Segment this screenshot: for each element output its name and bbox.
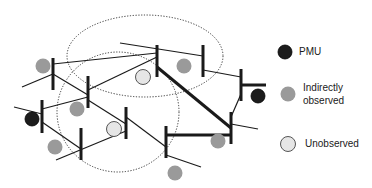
pmu-legend-icon — [278, 45, 292, 59]
indirect-node-icon — [177, 59, 192, 74]
unobserved-node-icon — [136, 70, 151, 85]
transmission-line — [53, 74, 88, 95]
transmission-line — [203, 70, 241, 77]
transmission-line — [22, 74, 53, 87]
transmission-line — [120, 43, 203, 56]
indirect-node-icon — [36, 59, 51, 74]
transmission-line — [166, 155, 201, 167]
indirect-node-icon — [211, 134, 226, 149]
legend-label-unobserved: Unobserved — [305, 138, 359, 150]
indirect-node-icon — [168, 166, 183, 181]
pmu-node-icon — [251, 89, 265, 103]
transmission-line — [126, 117, 166, 147]
transmission-line — [88, 100, 126, 124]
legend-label-indirect-line2: observed — [303, 95, 344, 107]
unobserved-legend-icon — [281, 137, 296, 152]
bus-markers — [25, 59, 265, 181]
transmission-line — [231, 124, 258, 129]
indirect-legend-icon — [281, 87, 296, 102]
network-diagram — [0, 0, 372, 188]
legend-label-pmu: PMU — [299, 46, 321, 58]
indirect-node-icon — [70, 102, 85, 117]
legend-label-indirect-line1: Indirectly — [303, 82, 343, 94]
transmission-line — [157, 67, 231, 128]
legend — [278, 45, 296, 152]
unobserved-node-icon — [107, 122, 122, 137]
indirect-node-icon — [48, 140, 63, 155]
transmission-line — [53, 53, 157, 64]
pmu-node-icon — [25, 112, 39, 126]
